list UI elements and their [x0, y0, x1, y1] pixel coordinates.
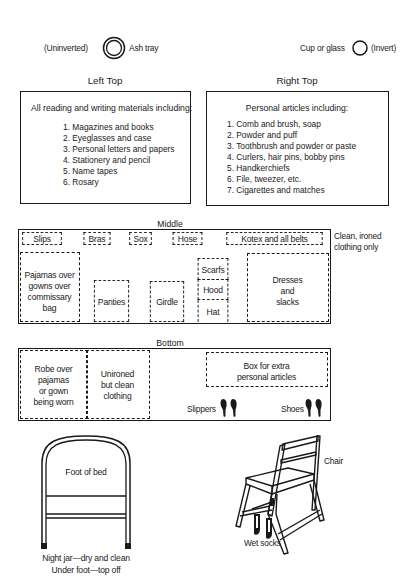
list-item: 7. Cigarettes and matches	[227, 184, 356, 195]
compartment-kotex: Kotex and all belts	[226, 232, 322, 245]
list-item: 4. Curlers, hair pins, bobby pins	[227, 151, 356, 162]
pajamas-label: Pajamas over gowns over commissary bag	[24, 269, 75, 313]
chair-label: Chair	[324, 455, 343, 466]
robe-label: Robe over pajamas or gown being worn	[24, 363, 83, 407]
cup-icon	[352, 40, 368, 56]
compartment-dresses: Dresses and slacks	[247, 253, 329, 322]
night-jar-caption: Night jar—dry and clean	[31, 552, 141, 564]
bed-foot-icon	[38, 433, 134, 551]
cup-label: Cup or glass	[300, 42, 345, 53]
label-line: commissary	[24, 291, 75, 302]
shoes-icon	[304, 398, 324, 418]
left-top-title: Left Top	[20, 75, 190, 86]
label-line: but clean	[90, 379, 145, 390]
cup-suffix: (Invert)	[371, 42, 396, 53]
shoes-label: Shoes	[281, 403, 304, 414]
compartment-hat: Hat	[198, 300, 229, 322]
list-item: 5. Name tapes	[63, 165, 175, 176]
label-line: bag	[24, 302, 75, 313]
compartment-unironed: Unironed but clean clothing	[86, 350, 150, 419]
right-top-list: 1. Comb and brush, soap 2. Powder and pu…	[227, 118, 356, 195]
foot-of-bed-label: Foot of bed	[46, 466, 125, 477]
compartment-hood: Hood	[198, 279, 229, 300]
label-line: Dresses	[252, 274, 323, 285]
left-top-heading: All reading and writing materials includ…	[31, 102, 179, 113]
compartment-bras: Bras	[84, 232, 111, 245]
compartment-panties: Panties	[94, 280, 129, 322]
list-item: 2. Eyeglasses and case	[63, 132, 175, 143]
extra-box-label: Box for extra personal articles	[213, 360, 320, 382]
ash-tray-label: Ash tray	[129, 42, 158, 53]
label-line: Robe over	[24, 363, 83, 374]
ash-tray-icon	[102, 36, 126, 60]
list-item: 6. File, tweezer, etc.	[227, 173, 356, 184]
compartment-slips: Slips	[22, 232, 62, 245]
label-line: gowns over	[24, 280, 75, 291]
unironed-label: Unironed but clean clothing	[90, 368, 145, 401]
list-item: 3. Toothbrush and powder or paste	[227, 140, 356, 151]
bottom-title: Bottom	[144, 337, 197, 348]
dresses-label: Dresses and slacks	[252, 274, 323, 307]
label-line: or gown	[24, 385, 83, 396]
ash-tray-group: (Uninverted) Ash tray	[44, 36, 164, 60]
list-item: 6. Rosary	[63, 176, 175, 187]
label-line: pajamas	[24, 374, 83, 385]
cup-group: Cup or glass (Invert)	[300, 36, 408, 60]
middle-title: Middle	[144, 218, 197, 229]
under-foot-caption: Under foot—top off	[31, 564, 141, 576]
list-item: 1. Comb and brush, soap	[227, 118, 356, 129]
list-item: 1. Magazines and books	[63, 121, 175, 132]
compartment-girdle: Girdle	[150, 281, 184, 322]
right-top-title: Right Top	[206, 75, 388, 86]
label-line: clothing	[90, 390, 145, 401]
middle-note: Clean, ironed clothing only	[334, 230, 381, 252]
label-line: Unironed	[90, 368, 145, 379]
label-line: personal articles	[213, 371, 320, 382]
label-line: Box for extra	[213, 360, 320, 371]
list-item: 5. Handkerchiefs	[227, 162, 356, 173]
compartment-hose: Hose	[173, 232, 203, 245]
wet-socks-label: Wet socks	[244, 537, 281, 548]
chair-icon	[232, 434, 332, 554]
left-top-box: All reading and writing materials includ…	[20, 91, 191, 204]
slippers-label: Slippers	[187, 403, 216, 414]
list-item: 2. Powder and puff	[227, 129, 356, 140]
middle-note-line1: Clean, ironed	[334, 230, 381, 241]
middle-note-line2: clothing only	[334, 241, 381, 252]
compartment-extra-box: Box for extra personal articles	[206, 352, 328, 387]
list-item: 3. Personal letters and papers	[63, 143, 175, 154]
right-top-heading: Personal articles including:	[218, 102, 376, 113]
slippers-icon	[219, 398, 239, 418]
bed-caption: Night jar—dry and clean Under foot—top o…	[31, 552, 141, 576]
compartment-pajamas: Pajamas over gowns over commissary bag	[20, 252, 80, 322]
compartment-robe: Robe over pajamas or gown being worn	[20, 350, 88, 419]
compartment-sox: Sox	[129, 232, 152, 245]
label-line: slacks	[252, 296, 323, 307]
label-line: and	[252, 285, 323, 296]
compartment-scarfs: Scarfs	[198, 258, 229, 280]
ash-tray-prefix: (Uninverted)	[44, 42, 88, 53]
left-top-list: 1. Magazines and books 2. Eyeglasses and…	[63, 121, 175, 187]
list-item: 4. Stationery and pencil	[63, 154, 175, 165]
label-line: being worn	[24, 396, 83, 407]
right-top-box: Personal articles including: 1. Comb and…	[206, 91, 389, 206]
label-line: Pajamas over	[24, 269, 75, 280]
